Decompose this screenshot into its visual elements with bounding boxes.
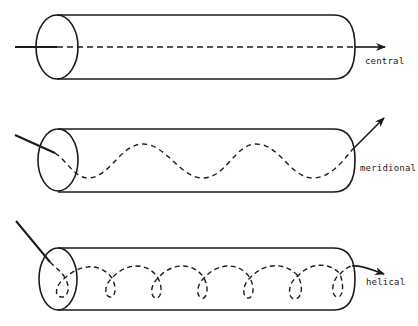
central-ray-panel <box>15 15 385 79</box>
exit-ray-arrow <box>352 118 384 150</box>
incident-ray <box>15 135 55 153</box>
meridional-ray-panel <box>15 118 384 192</box>
fiber-end-face <box>38 129 78 191</box>
helical-ray-panel <box>16 221 384 310</box>
meridional-label: meridional <box>360 163 416 173</box>
guided-ray-dashed <box>55 144 352 178</box>
fiber-ray-diagram <box>0 0 418 326</box>
helical-label: helical <box>366 277 405 287</box>
guided-ray-dashed <box>50 262 352 299</box>
fiber-end-face <box>39 248 77 310</box>
fiber-cylinder <box>38 129 355 192</box>
fiber-cylinder <box>39 248 355 310</box>
incident-ray <box>16 221 50 262</box>
central-label: central <box>365 56 404 66</box>
exit-ray-arrow <box>352 266 384 274</box>
